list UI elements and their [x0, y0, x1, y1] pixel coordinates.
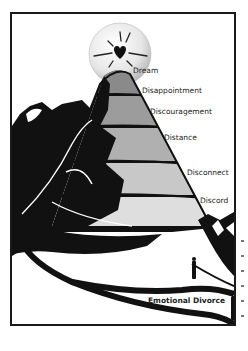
diagram-frame: Dream Disappointment Discouragement Dist…	[10, 12, 236, 326]
label-discord: Discord	[200, 196, 228, 205]
label-disappointment: Disappointment	[142, 86, 202, 95]
label-disconnect: Disconnect	[187, 168, 229, 177]
label-distance: Distance	[164, 133, 197, 142]
standing-figure-small	[192, 257, 196, 279]
right-dark-peak	[198, 212, 234, 276]
label-dream: Dream	[133, 66, 158, 75]
page-edge-marks	[241, 240, 247, 330]
label-emotional-divorce: Emotional Divorce	[148, 296, 225, 305]
label-discouragement: Discouragement	[150, 107, 212, 116]
road-paths	[20, 240, 234, 324]
